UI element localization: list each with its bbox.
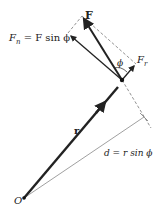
dashed-guides bbox=[68, 16, 151, 128]
origin-point bbox=[22, 196, 26, 200]
label-Fr: Fr bbox=[137, 55, 147, 68]
label-F: F bbox=[85, 10, 93, 21]
Fr-vector bbox=[122, 66, 134, 80]
F-vector bbox=[84, 19, 122, 80]
label-O: O bbox=[14, 196, 22, 206]
label-Fn: Fn = F sin ϕ bbox=[9, 33, 70, 46]
label-phi: ϕ bbox=[117, 59, 123, 68]
label-d: d = r sin ϕ bbox=[104, 149, 152, 158]
application-point bbox=[120, 78, 124, 82]
label-r: r bbox=[74, 126, 79, 136]
Fn-vector bbox=[71, 36, 122, 80]
d-tick bbox=[140, 113, 148, 121]
